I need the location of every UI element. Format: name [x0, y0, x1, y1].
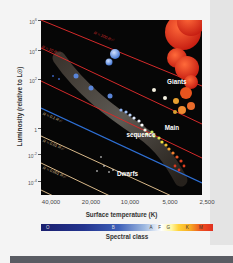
- side-panel: [210, 0, 233, 245]
- hr-diagram-plot: R = 100 R☉ R = 10 R☉ R = 0.1 R☉ R = 0.01…: [41, 20, 202, 195]
- y-tick-1e2: 102: [29, 76, 37, 84]
- y-tick-1e4: 104: [29, 47, 37, 55]
- x-tick-2500: 2,500: [199, 199, 214, 205]
- y-tick-1e6: 106: [29, 17, 37, 25]
- spectral-class-label: Spectral class: [41, 233, 213, 240]
- y-tick-1e-2: 10-2: [28, 151, 37, 159]
- spectral-o: O: [46, 224, 50, 231]
- spectral-g: G: [167, 224, 171, 231]
- y-tick-1e-4: 10-4: [28, 178, 37, 186]
- giants-label: Giants: [167, 78, 187, 85]
- main-sequence-label-line2: sequence: [123, 131, 159, 138]
- spectral-b: B: [112, 224, 115, 231]
- x-tick-10000: 10,000: [121, 199, 139, 205]
- y-tick-1: 1: [34, 125, 37, 133]
- spectral-m: M: [199, 224, 203, 231]
- x-tick-5000: 5,000: [162, 199, 177, 205]
- spectral-f: F: [158, 224, 161, 231]
- y-axis-label: Luminosity (relative to L☉): [16, 52, 23, 162]
- spectral-k: K: [186, 224, 189, 231]
- spectral-class-bar: O B A F G K M: [41, 224, 213, 231]
- main-sequence-label-line1: Main: [154, 124, 190, 131]
- x-axis-label: Surface temperature (K): [41, 211, 202, 218]
- spectral-a: A: [150, 224, 153, 231]
- x-tick-40000: 40,000: [42, 199, 60, 205]
- x-tick-20000: 20,000: [82, 199, 100, 205]
- plot-graphics: [41, 20, 202, 195]
- bottom-bar: [10, 256, 233, 263]
- r-0001-line: [41, 190, 202, 195]
- dwarfs-label: Dwarfs: [117, 170, 138, 177]
